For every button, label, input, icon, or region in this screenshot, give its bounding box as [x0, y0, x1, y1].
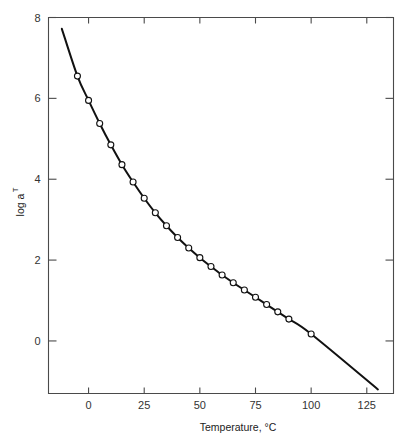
- y-tick-label: 8: [34, 12, 40, 24]
- data-point-marker: [308, 331, 314, 337]
- data-point-marker: [275, 309, 281, 315]
- data-point-marker: [152, 210, 158, 216]
- data-point-marker: [197, 255, 203, 261]
- data-point-marker: [141, 195, 147, 201]
- data-point-marker: [119, 162, 125, 168]
- axis-frame: [49, 18, 394, 394]
- data-point-marker: [108, 142, 114, 148]
- data-point-marker: [286, 316, 292, 322]
- data-point-marker: [219, 272, 225, 278]
- y-tick-label: 0: [34, 335, 40, 347]
- data-point-marker: [264, 302, 270, 308]
- data-markers: [74, 73, 314, 337]
- data-series-group: [62, 29, 378, 390]
- data-point-marker: [97, 120, 103, 126]
- y-axis-ticks: [49, 18, 394, 341]
- data-point-marker: [241, 287, 247, 293]
- y-tick-label: 6: [34, 92, 40, 104]
- x-axis-tick-labels: 0255075100125: [86, 399, 376, 411]
- data-point-marker: [163, 223, 169, 229]
- svg-text:T: T: [11, 187, 20, 192]
- x-tick-label: 125: [358, 399, 376, 411]
- x-axis-title: Temperature, °C: [200, 421, 277, 433]
- data-point-marker: [74, 73, 80, 79]
- x-tick-label: 25: [138, 399, 150, 411]
- data-point-marker: [130, 179, 136, 185]
- y-axis-title: log a T: [11, 187, 26, 216]
- svg-text:Temperature, °C: Temperature, °C: [200, 421, 277, 433]
- y-axis-tick-labels: 02468: [34, 12, 40, 347]
- data-point-marker: [175, 234, 181, 240]
- x-axis-ticks: [89, 18, 367, 394]
- data-point-marker: [208, 264, 214, 270]
- data-point-marker: [253, 294, 259, 300]
- data-point-marker: [230, 280, 236, 286]
- plot-area: 0255075100125 02468 Temperature, °C log …: [0, 0, 417, 447]
- chart-figure: 0255075100125 02468 Temperature, °C log …: [0, 0, 417, 447]
- y-tick-label: 4: [34, 173, 40, 185]
- data-point-marker: [186, 245, 192, 251]
- x-tick-label: 0: [86, 399, 92, 411]
- svg-text:log a: log a: [14, 193, 26, 216]
- x-tick-label: 50: [194, 399, 206, 411]
- x-tick-label: 75: [249, 399, 261, 411]
- y-tick-label: 2: [34, 254, 40, 266]
- data-point-marker: [86, 97, 92, 103]
- x-tick-label: 100: [302, 399, 320, 411]
